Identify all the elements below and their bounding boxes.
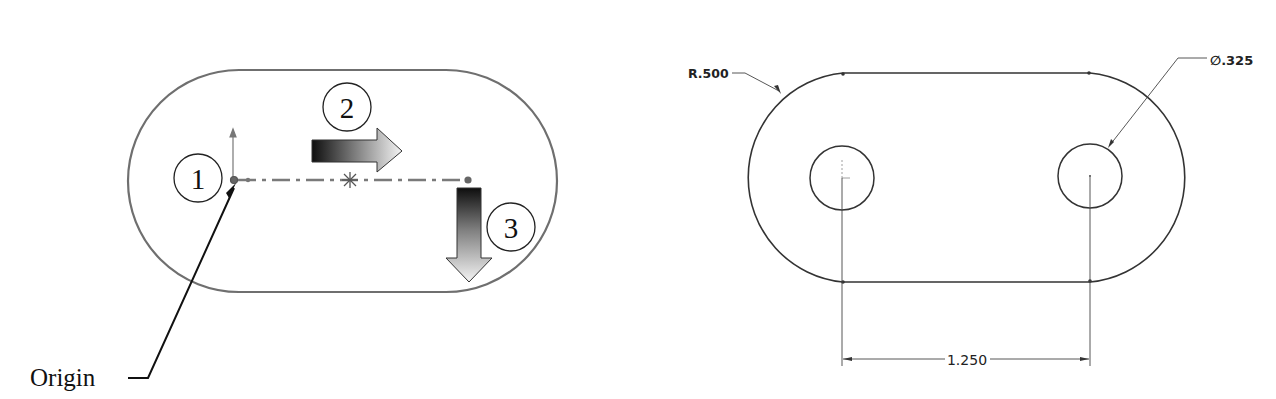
midpoint-icon (342, 172, 358, 188)
radius-callout: R.500 (688, 66, 781, 94)
step-3-callout: 3 (487, 203, 535, 251)
diameter-callout: ∅.325 (1108, 53, 1253, 148)
drawing-canvas: 1 2 3 Origin (0, 0, 1276, 399)
step-3-label: 3 (504, 212, 519, 244)
right-figure: 1.250 R.500 ∅.325 (688, 53, 1253, 368)
origin-label: Origin (30, 364, 96, 391)
arrow-right-icon (312, 128, 402, 172)
step-2-label: 2 (340, 92, 355, 124)
tangent-points (841, 71, 1092, 284)
center-distance-dimension: 1.250 (843, 352, 1089, 368)
diameter-label: ∅.325 (1210, 53, 1253, 68)
center-distance-label: 1.250 (947, 352, 987, 368)
radius-label: R.500 (688, 66, 729, 81)
slot-outline-dimensioned (748, 73, 1185, 282)
origin-icon (230, 129, 238, 184)
extension-lines (842, 177, 1090, 366)
left-figure: 1 2 3 Origin (30, 70, 557, 391)
origin-leader (128, 183, 236, 378)
arrow-down-icon (446, 188, 492, 282)
step-1-label: 1 (191, 163, 206, 195)
step-2-callout: 2 (323, 83, 371, 131)
step-1-callout: 1 (174, 154, 222, 202)
